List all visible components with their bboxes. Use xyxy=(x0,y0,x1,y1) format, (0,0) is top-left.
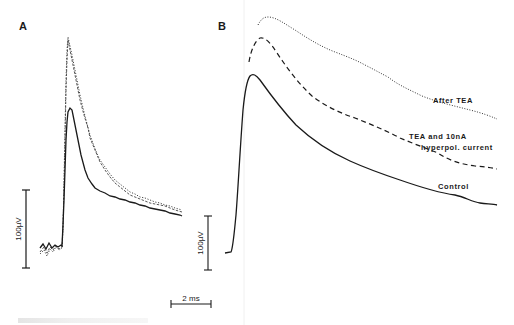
panel-a-voltage-scale-label: 100µV xyxy=(14,217,23,241)
cut-off-caption xyxy=(18,318,148,323)
panel-a-trace-tea-hyperpol xyxy=(40,40,182,253)
panel-b: B 100µV After TEA TEA and 10nA hyperpol.… xyxy=(196,17,497,270)
label-control: Control xyxy=(438,182,469,191)
time-scale-bar: 2 ms xyxy=(171,294,211,308)
label-after-tea: After TEA xyxy=(433,96,473,105)
panel-a-voltage-scale-bar: 100µV xyxy=(14,190,30,268)
label-tea-hyperpol-line1: TEA and 10nA xyxy=(409,132,467,141)
panel-a-label: A xyxy=(19,20,27,32)
panel-b-voltage-scale-bar: 100µV xyxy=(196,216,212,270)
panel-b-label: B xyxy=(218,20,226,32)
time-scale-label: 2 ms xyxy=(182,294,199,303)
label-tea-hyperpol-line2: hyperpol. current xyxy=(421,143,493,152)
panel-a-trace-tea xyxy=(40,37,182,256)
panel-b-voltage-scale-label: 100µV xyxy=(196,231,205,255)
figure: A 100µV 2 ms B 100µV After TEA TEA and 1 xyxy=(0,0,514,325)
panel-a: A 100µV xyxy=(14,20,182,268)
